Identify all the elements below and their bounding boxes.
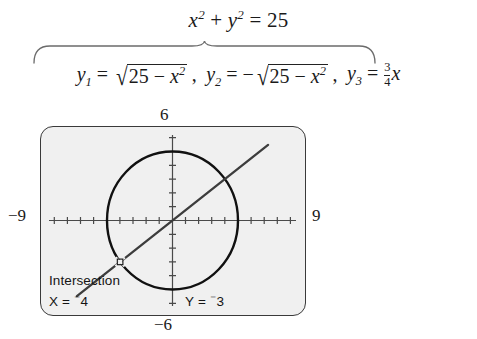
y3-variable: y bbox=[347, 63, 356, 85]
circle-equation: x2 + y2 = 25 bbox=[0, 8, 477, 33]
y-variable: y bbox=[228, 8, 238, 32]
y2-negative-sign: − bbox=[243, 63, 254, 85]
y2-equals: = bbox=[226, 63, 237, 85]
y2-radical: √25 − x2 bbox=[254, 62, 328, 90]
intersection-readout-title: Intersection bbox=[49, 273, 120, 288]
y1-variable: y bbox=[77, 63, 86, 85]
y1-radicand-variable: x bbox=[170, 65, 179, 87]
branch-equations-row: y1 = √25 − x2, y2 = −√25 − x2, y3 = 34x bbox=[0, 62, 477, 90]
window-ymin-label: −6 bbox=[154, 315, 172, 335]
y-readout-value: 3 bbox=[216, 294, 224, 309]
y1-radicand-operator: − bbox=[154, 65, 165, 87]
y1-radicand-exponent: 2 bbox=[179, 64, 185, 78]
y2-radicand-variable: x bbox=[311, 65, 320, 87]
x-variable: x bbox=[189, 8, 199, 32]
y1-radical: √25 − x2 bbox=[113, 62, 187, 90]
equation-y2: y2 = −√25 − x2 bbox=[206, 62, 328, 90]
y1-radicand: 25 − x2 bbox=[127, 64, 187, 88]
equals-operator: = bbox=[244, 8, 267, 32]
equation-y3: y3 = 34x bbox=[347, 62, 400, 89]
calculator-screen[interactable]: Intersection X = ⁻4 Y = ⁻3 bbox=[40, 126, 306, 316]
x-exponent: 2 bbox=[198, 7, 205, 22]
y2-radicand: 25 − x2 bbox=[268, 64, 328, 88]
y-readout-equals: = bbox=[198, 294, 206, 309]
y1-radicand-constant: 25 bbox=[129, 65, 149, 87]
equation-constant: 25 bbox=[267, 8, 288, 32]
equation-block: x2 + y2 = 25 y1 = √25 − x2, y2 = −√25 − … bbox=[0, 0, 477, 108]
y2-radicand-constant: 25 bbox=[270, 65, 290, 87]
y2-radicand-exponent: 2 bbox=[320, 64, 326, 78]
y2-variable: y bbox=[206, 63, 215, 85]
equation-y-term: y2 bbox=[228, 8, 244, 32]
separator-comma-2: , bbox=[328, 63, 342, 86]
y3-equals: = bbox=[367, 63, 378, 85]
x-readout-value: 4 bbox=[80, 294, 88, 309]
x-readout-negative-sign: ⁻ bbox=[74, 292, 80, 306]
intersection-y-readout: Y = ⁻3 bbox=[185, 292, 224, 309]
fraction-numerator: 3 bbox=[384, 61, 390, 74]
y3-trailing-variable: x bbox=[391, 63, 400, 85]
x-readout-label: X bbox=[49, 294, 58, 309]
intersection-x-readout: X = ⁻4 bbox=[49, 292, 88, 309]
equation-x-term: x2 bbox=[189, 8, 205, 32]
y3-fraction: 34 bbox=[384, 61, 390, 88]
graphing-calculator-figure: 6 −6 −9 9 bbox=[0, 108, 477, 339]
y-readout-negative-sign: ⁻ bbox=[210, 292, 216, 306]
window-xmax-label: 9 bbox=[312, 206, 321, 226]
separator-comma-1: , bbox=[187, 63, 201, 86]
window-ymax-label: 6 bbox=[160, 105, 169, 125]
y-readout-label: Y bbox=[185, 294, 194, 309]
equation-y1: y1 = √25 − x2 bbox=[77, 62, 187, 90]
window-xmin-label: −9 bbox=[8, 206, 26, 226]
y2-radicand-operator: − bbox=[295, 65, 306, 87]
plus-operator: + bbox=[205, 8, 228, 32]
y1-equals: = bbox=[97, 63, 108, 85]
curly-brace-icon bbox=[32, 40, 377, 64]
x-readout-equals: = bbox=[62, 294, 70, 309]
fraction-denominator: 4 bbox=[384, 75, 390, 89]
